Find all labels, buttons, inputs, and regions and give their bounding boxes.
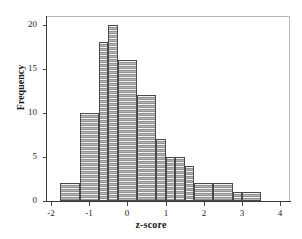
x-axis-title: z-score — [0, 219, 302, 230]
histogram-bar — [194, 183, 213, 201]
x-axis-tick-label: 2 — [196, 208, 212, 218]
histogram-bar — [213, 183, 232, 201]
histogram-bar — [233, 192, 243, 201]
x-axis-tick — [166, 202, 167, 206]
y-axis-tick — [43, 69, 47, 70]
histogram-bar — [80, 113, 99, 201]
histogram-bar — [99, 42, 109, 201]
histogram-bar — [118, 60, 137, 201]
x-axis-tick-label: -1 — [81, 208, 97, 218]
histogram-bar — [60, 183, 79, 201]
y-axis-title: Frequency — [15, 28, 26, 148]
histogram-bar — [156, 139, 166, 201]
x-axis-tick-label: 0 — [119, 208, 135, 218]
x-axis-tick — [280, 202, 281, 206]
x-axis-line — [46, 201, 291, 202]
x-axis-tick — [51, 202, 52, 206]
y-axis-tick-label: 5 — [15, 151, 37, 161]
y-axis-tick — [43, 201, 47, 202]
histogram-bar — [108, 25, 118, 201]
histogram-figure: 05101520 -2-101234 Frequency z-score — [0, 0, 302, 239]
histogram-bar — [185, 166, 195, 201]
x-axis-tick-label: 1 — [158, 208, 174, 218]
histogram-bar — [175, 157, 185, 201]
x-axis-tick — [242, 202, 243, 206]
bars-container — [47, 16, 290, 201]
y-axis-tick — [43, 157, 47, 158]
y-axis-tick — [43, 113, 47, 114]
x-axis-tick — [127, 202, 128, 206]
histogram-bar — [242, 192, 261, 201]
histogram-bar — [166, 157, 176, 201]
x-axis-tick — [89, 202, 90, 206]
histogram-bar — [137, 95, 156, 201]
x-axis-tick-label: 3 — [234, 208, 250, 218]
x-axis-tick-label: -2 — [43, 208, 59, 218]
y-axis-tick-label: 0 — [15, 195, 37, 205]
x-axis-tick — [204, 202, 205, 206]
y-axis-tick — [43, 25, 47, 26]
x-axis-tick-label: 4 — [272, 208, 288, 218]
